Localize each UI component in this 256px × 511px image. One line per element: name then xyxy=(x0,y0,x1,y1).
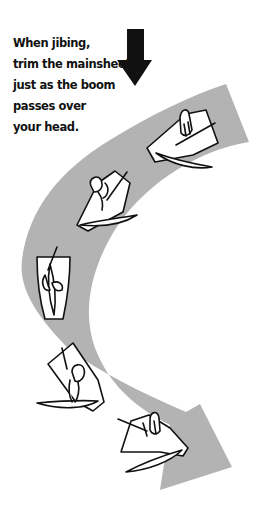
jibe-diagram xyxy=(0,0,256,511)
wind-direction-arrow-icon xyxy=(117,29,152,86)
boat-3-icon xyxy=(37,247,70,319)
